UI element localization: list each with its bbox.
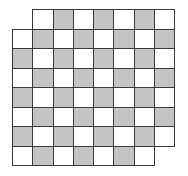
dark-square: [134, 48, 155, 69]
dark-square: [53, 126, 74, 147]
light-square: [73, 87, 94, 108]
dark-square: [53, 48, 74, 69]
light-square: [12, 107, 33, 127]
dark-square: [53, 87, 74, 108]
dark-square: [12, 126, 33, 147]
light-square: [73, 126, 94, 147]
dark-square: [134, 126, 155, 147]
dark-square: [134, 87, 155, 108]
dark-square: [93, 48, 114, 69]
light-square: [113, 9, 135, 30]
light-square: [53, 107, 74, 127]
light-square: [32, 9, 54, 30]
dark-square: [93, 9, 114, 30]
light-square: [154, 126, 175, 147]
light-square: [93, 146, 114, 166]
light-square: [53, 68, 74, 88]
light-square: [32, 87, 54, 108]
dark-square: [93, 126, 114, 147]
light-square: [134, 29, 155, 49]
light-square: [12, 68, 33, 88]
light-square: [154, 9, 175, 30]
dark-square: [113, 146, 135, 166]
dark-square: [32, 146, 54, 166]
dark-square: [113, 107, 135, 127]
mutilated-checkerboard: [12, 9, 174, 165]
dark-square: [12, 87, 33, 108]
light-square: [32, 48, 54, 69]
light-square: [134, 107, 155, 127]
dark-square: [32, 68, 54, 88]
light-square: [93, 68, 114, 88]
light-square: [154, 48, 175, 69]
light-square: [134, 68, 155, 88]
dark-square: [93, 87, 114, 108]
light-square: [113, 126, 135, 147]
light-square: [134, 146, 155, 166]
light-square: [53, 29, 74, 49]
light-square: [73, 48, 94, 69]
light-square: [93, 29, 114, 49]
dark-square: [32, 107, 54, 127]
dark-square: [154, 107, 175, 127]
light-square: [53, 146, 74, 166]
light-square: [73, 9, 94, 30]
light-square: [93, 107, 114, 127]
dark-square: [113, 29, 135, 49]
dark-square: [154, 29, 175, 49]
dark-square: [73, 68, 94, 88]
dark-square: [113, 68, 135, 88]
light-square: [12, 146, 33, 166]
light-square: [113, 87, 135, 108]
light-square: [12, 29, 33, 49]
dark-square: [73, 146, 94, 166]
dark-square: [32, 29, 54, 49]
dark-square: [134, 9, 155, 30]
light-square: [32, 126, 54, 147]
dark-square: [12, 48, 33, 69]
dark-square: [53, 9, 74, 30]
light-square: [113, 48, 135, 69]
dark-square: [154, 68, 175, 88]
light-square: [154, 87, 175, 108]
dark-square: [73, 107, 94, 127]
dark-square: [73, 29, 94, 49]
